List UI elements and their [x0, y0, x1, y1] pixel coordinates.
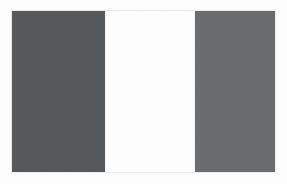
- flag-image-viewer: [0, 0, 287, 184]
- flag-band-fly: [195, 11, 275, 172]
- flag-plate: [11, 10, 276, 173]
- flag-band-hoist: [12, 11, 105, 172]
- flag-band-middle: [105, 11, 195, 172]
